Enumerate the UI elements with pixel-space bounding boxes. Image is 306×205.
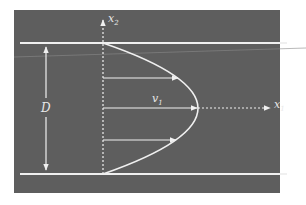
- faint-line: [14, 48, 306, 57]
- velocity-label: v1: [152, 92, 163, 107]
- diameter-label: D: [40, 101, 51, 115]
- flow-diagram: x2 x1 v1 D: [0, 0, 306, 205]
- x2-label: x2: [108, 12, 119, 27]
- x1-label: x1: [274, 98, 285, 113]
